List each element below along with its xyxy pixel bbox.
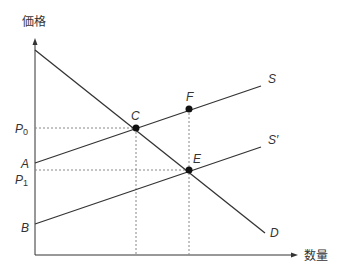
label-e: E — [193, 152, 202, 166]
label-c: C — [131, 109, 140, 123]
p0-main: P — [15, 122, 23, 136]
label-b: B — [21, 221, 29, 235]
label-f: F — [186, 90, 194, 104]
label-d: D — [270, 226, 279, 240]
supply-demand-diagram: 価格 数量 S S′ D C F E P0 P1 A B — [0, 0, 339, 275]
demand-curve — [35, 50, 265, 233]
label-s: S — [268, 72, 276, 86]
supply-curve — [35, 86, 261, 163]
y-axis-label: 価格 — [22, 14, 46, 29]
x-axis-arrow-icon — [291, 253, 298, 258]
label-s-prime: S′ — [268, 133, 279, 147]
y-axis-arrow-icon — [33, 38, 38, 45]
points — [133, 106, 193, 174]
point-c — [133, 125, 140, 132]
p0-sub: 0 — [23, 127, 28, 137]
point-e — [186, 167, 193, 174]
guide-lines — [35, 109, 189, 255]
p1-sub: 1 — [23, 178, 28, 188]
supply-shifted-curve — [35, 147, 261, 224]
label-p0: P0 — [15, 122, 28, 137]
curves — [35, 50, 265, 233]
x-axis-label: 数量 — [304, 248, 328, 263]
label-p1: P1 — [15, 173, 28, 188]
point-f — [186, 106, 193, 113]
label-a: A — [20, 157, 29, 171]
p1-main: P — [15, 173, 23, 187]
